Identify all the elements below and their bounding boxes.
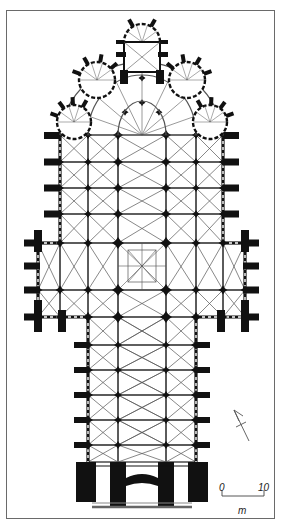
crossing-rib — [142, 243, 166, 266]
chapel-buttress — [198, 100, 202, 107]
flying-buttress-pier — [223, 159, 239, 166]
chapel-buttress — [83, 100, 87, 107]
nave-buttress — [196, 417, 210, 423]
transept-buttress — [217, 310, 225, 332]
pier — [114, 416, 122, 424]
nave-buttress — [74, 442, 88, 448]
scale-end-label: 10 — [258, 483, 269, 493]
crossing-rib — [128, 250, 142, 266]
transept-buttress — [58, 310, 66, 332]
transept-corner-buttress — [34, 300, 42, 332]
transept-corner-buttress — [241, 230, 249, 252]
chapel-buttress — [167, 63, 173, 68]
pier — [162, 416, 170, 424]
flying-buttress-pier — [223, 185, 239, 192]
pier — [114, 391, 122, 399]
nave-buttress — [196, 442, 210, 448]
crossing-rib — [142, 266, 156, 282]
chapel-buttress — [182, 54, 183, 62]
cathedral-floor-plan — [0, 0, 283, 531]
central-portal-jamb — [126, 474, 158, 486]
chapel-buttress — [84, 57, 88, 64]
chapel-buttress — [204, 71, 212, 74]
chapel-buttress — [151, 19, 155, 26]
scale-unit-label: m — [238, 506, 246, 516]
north-arrow-icon — [234, 410, 249, 441]
crossing-rib — [128, 266, 142, 282]
flying-buttress-pier — [223, 211, 239, 218]
nave-buttress — [196, 342, 210, 348]
crossing-rib — [118, 243, 142, 266]
west-tower-pier — [76, 462, 96, 502]
pier — [161, 183, 171, 193]
west-tower-pier — [188, 462, 208, 502]
transept-buttress — [24, 287, 40, 294]
transept-buttress — [243, 263, 259, 270]
transept-buttress — [243, 287, 259, 294]
nave-buttress — [74, 417, 88, 423]
transept-buttress — [24, 263, 40, 270]
pier — [114, 441, 122, 449]
flying-buttress-pier — [44, 159, 60, 166]
apse-chevet — [51, 19, 234, 139]
west-portal-pier — [110, 462, 126, 507]
flying-buttress-pier — [44, 132, 60, 139]
flying-buttress-pier — [223, 132, 239, 139]
axial-chapel-buttress — [116, 52, 126, 57]
chapel-junction-pier — [120, 70, 128, 84]
vault-ribs — [38, 135, 245, 462]
north-arrow-crossbar — [236, 422, 246, 427]
chapel-buttress — [220, 102, 225, 108]
chapel-buttress — [51, 113, 59, 116]
chapel-buttress — [59, 102, 64, 108]
nave-buttress — [196, 392, 210, 398]
chapel-buttress — [73, 71, 81, 74]
scale-start-label: 0 — [219, 483, 225, 493]
pier — [162, 441, 170, 449]
pier — [113, 183, 123, 193]
chapel-buttress — [226, 113, 234, 116]
chapel-buttress — [111, 63, 117, 68]
chapel-buttress — [196, 57, 200, 64]
chapel-buttress — [100, 54, 101, 62]
transept-corner-buttress — [241, 300, 249, 332]
nave-buttress — [196, 367, 210, 373]
transept-corner-buttress — [34, 230, 42, 252]
nave-buttress — [74, 392, 88, 398]
nave-buttress — [74, 367, 88, 373]
chapel-buttress — [129, 19, 133, 26]
chapel-junction-pier — [156, 70, 164, 84]
pier — [114, 366, 122, 374]
crossing-rib — [142, 266, 166, 290]
flying-buttress-pier — [44, 185, 60, 192]
axial-chapel-buttress — [158, 52, 168, 57]
flying-buttress-pier — [44, 211, 60, 218]
west-facade — [76, 462, 208, 507]
nave-buttress — [74, 342, 88, 348]
pier — [162, 366, 170, 374]
crossing-rib — [142, 250, 156, 266]
west-portal-pier — [158, 462, 174, 507]
pier — [162, 391, 170, 399]
crossing-rib — [118, 266, 142, 290]
